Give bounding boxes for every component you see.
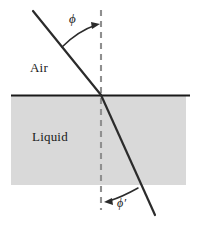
air-label: Air <box>30 61 48 74</box>
incident-arc-arrowhead <box>91 22 100 29</box>
refraction-diagram: Air Liquid ϕ ϕ′ <box>0 0 199 225</box>
incident-angle-arc <box>62 25 96 47</box>
liquid-label: Liquid <box>32 130 68 143</box>
refracted-angle-label: ϕ′ <box>117 197 126 209</box>
refracted-arc-arrowhead <box>104 198 113 205</box>
incident-ray <box>33 11 101 95</box>
incident-angle-label: ϕ <box>69 12 76 25</box>
diagram-canvas <box>0 0 199 225</box>
